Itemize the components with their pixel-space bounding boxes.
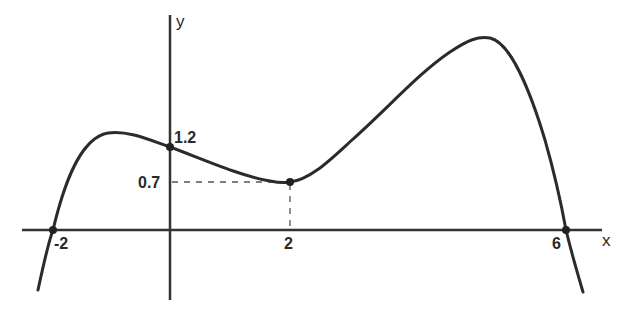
point-root-right xyxy=(562,226,570,234)
root-right-label: 6 xyxy=(552,235,561,252)
local-min-y-label: 0.7 xyxy=(138,174,160,191)
function-graph: y x 1.2 0.7 -2 2 6 xyxy=(0,0,619,312)
point-y-intercept xyxy=(166,143,174,151)
min-x-label: 2 xyxy=(284,235,293,252)
x-axis-label: x xyxy=(602,231,611,250)
y-axis-label: y xyxy=(176,12,185,31)
root-left-label: -2 xyxy=(54,235,68,252)
y-intercept-label: 1.2 xyxy=(174,129,196,146)
function-curve xyxy=(38,38,583,292)
point-root-left xyxy=(49,226,57,234)
point-local-min xyxy=(286,178,294,186)
